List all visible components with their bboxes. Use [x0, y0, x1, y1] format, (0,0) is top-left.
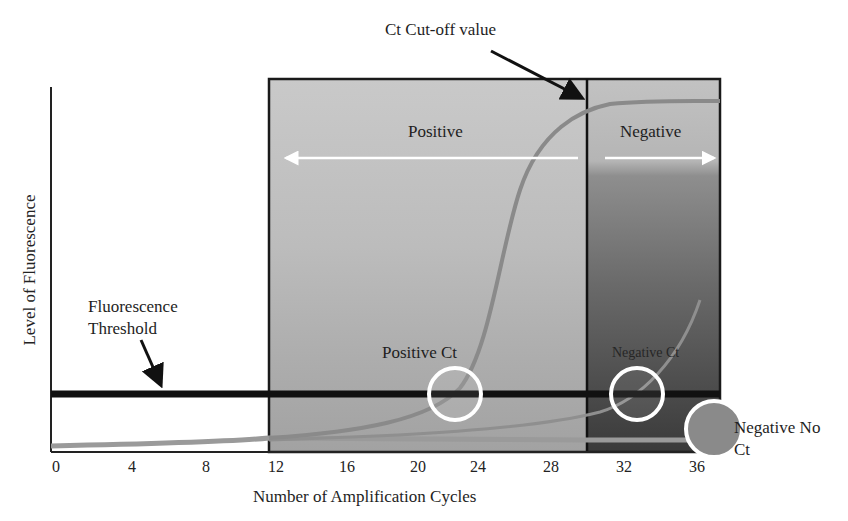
threshold-label-line2: Threshold [88, 319, 157, 339]
qpcr-diagram [0, 0, 848, 521]
negative-ct-label: Negative Ct [612, 345, 679, 361]
x-tick: 0 [52, 458, 60, 476]
positive-region-label: Positive [408, 122, 463, 142]
threshold-arrow [141, 340, 160, 383]
negative-no-ct-label-line1: Negative No [734, 418, 820, 438]
x-tick: 8 [202, 458, 210, 476]
negative-region-label: Negative [620, 122, 681, 142]
x-tick: 20 [410, 458, 426, 476]
x-tick: 12 [268, 458, 284, 476]
negative-ct-marker [611, 368, 663, 420]
x-tick: 36 [689, 458, 705, 476]
threshold-label-line1: Fluorescence [88, 297, 178, 317]
x-tick: 32 [616, 458, 632, 476]
negative-no-ct-label-line2: Ct [734, 440, 750, 460]
x-tick: 4 [128, 458, 136, 476]
y-axis-label: Level of Fluorescence [20, 170, 40, 370]
x-axis-label: Number of Amplification Cycles [253, 487, 476, 507]
x-tick: 28 [543, 458, 559, 476]
cutoff-label: Ct Cut-off value [385, 20, 496, 40]
x-tick: 16 [339, 458, 355, 476]
positive-ct-label: Positive Ct [382, 343, 457, 363]
positive-ct-marker [429, 368, 481, 420]
x-tick: 24 [470, 458, 486, 476]
